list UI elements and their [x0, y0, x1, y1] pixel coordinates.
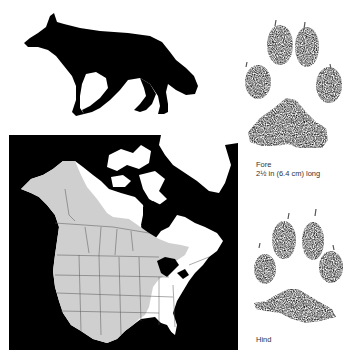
fore-paw-print-icon — [240, 0, 351, 160]
wolf-silhouette-icon — [0, 0, 240, 130]
range-map — [9, 135, 238, 350]
hind-track-label: Hind — [256, 335, 271, 344]
fore-track-size: 2½ in (6.4 cm) long — [256, 169, 320, 178]
fore-track-label: Fore — [256, 160, 271, 169]
hind-paw-print-icon — [240, 185, 351, 330]
